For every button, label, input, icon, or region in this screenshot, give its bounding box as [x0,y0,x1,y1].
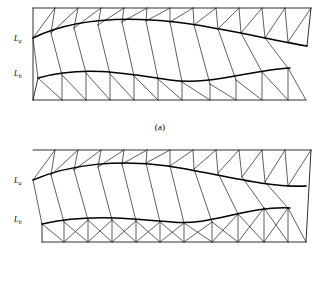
b-middle-band-line-6 [170,166,184,223]
b-right-boundary [306,150,311,242]
a-lower-diagonal-10 [288,68,306,100]
a-middle-band-line-8 [218,29,236,80]
a-lower-diagonal-8 [236,80,262,100]
b-upper-diagonal-1 [51,150,78,175]
a-upper-diagonal-7 [194,8,216,25]
a-lower-diagonal-4 [134,76,158,100]
b-upper-vertical-3 [122,150,124,164]
b-middle-band-line-1 [51,175,64,222]
panel-caption-a: (a) [0,122,320,132]
curve-label-group-b: LaLb [13,176,22,225]
a-upper-vertical-9 [262,8,265,38]
a-label-La: La [13,34,22,44]
a-upper-vertical-8 [239,8,241,33]
a-lower-diagonal-3 [110,74,134,100]
a-lower-left-closure [33,78,38,100]
a-lower-diagonal-9 [262,72,288,100]
mesh-diagram-a: LaLb [0,0,320,120]
a-upper-diagonal-5 [146,8,170,21]
a-label-Lb: Lb [13,69,22,79]
curve-label-group-a: LaLb [13,34,22,79]
a-lower-diagonal-5 [158,79,182,100]
a-upper-diagonal-2 [74,8,101,28]
b-upper-diagonal-8 [218,150,239,173]
b-upper-vertical-10 [285,150,288,186]
a-upper-vertical-2 [98,8,101,25]
a-lower-diagonal-7 [210,84,236,100]
a-middle-band-line-2 [74,28,86,73]
mesh-boundary-group-b [33,150,311,242]
b-upper-vertical-9 [262,150,265,182]
b-upper-diagonal-9 [242,150,262,177]
b-label-Lb: Lb [13,215,22,225]
a-middle-band-line-0 [33,38,38,78]
b-upper-diagonal-4 [122,150,147,164]
figure-root: LaLb (a) LaLb (b) [0,0,320,284]
panel-b: LaLb (b) [0,142,320,284]
a-upper-diagonal-10 [265,8,285,38]
b-upper-vertical-0 [51,150,55,175]
a-right-upper-boundary [307,8,311,46]
b-middle-band-line-0 [33,180,42,224]
b-upper-diagonal-5 [146,150,170,163]
b-middle-band-line-5 [146,163,160,222]
a-middle-band-line-9 [241,33,262,72]
a-middle-band-line-7 [194,25,210,84]
a-upper-diagonal-3 [98,8,124,25]
b-upper-vertical-6 [193,150,194,169]
b-interface-curve-b [42,208,290,224]
interface-curve-group-b [33,163,306,224]
a-upper-vertical-10 [285,8,288,42]
a-lower-diagonal-1 [62,75,86,100]
mesh-diagram-b: LaLb [0,142,320,262]
b-upper-diagonal-7 [194,150,216,169]
a-middle-band-line-1 [51,33,62,75]
b-label-La: La [13,176,22,186]
b-lower-diagonal-10 [288,208,306,242]
a-middle-band-line-3 [98,25,110,74]
a-interface-curve-b [38,68,290,81]
b-middle-band-line-7 [194,169,212,222]
mesh-edge-group-b [33,150,311,242]
b-middle-band-line-4 [122,164,136,221]
a-lower-diagonal-0 [38,78,62,100]
a-upper-diagonal-6 [170,8,193,22]
a-middle-band-line-4 [122,22,134,76]
b-interface-curve-a [33,163,306,186]
b-middle-band-line-3 [98,167,112,220]
panel-a: LaLb (a) [0,0,320,142]
a-upper-vertical-7 [216,8,218,29]
b-upper-diagonal-10 [265,150,285,182]
a-middle-band-line-6 [170,22,182,82]
b-upper-vertical-7 [216,150,218,173]
b-lower-diagonal-8 [238,214,264,242]
a-upper-vertical-6 [193,8,194,25]
b-middle-band-line-2 [74,170,88,220]
a-upper-diagonal-9 [241,8,262,33]
a-lower-diagonal-2 [86,73,110,100]
b-upper-vertical-4 [146,150,147,163]
b-lower-diagonal-0 [42,224,64,242]
b-upper-diagonal-6 [170,150,193,166]
a-lower-diagonal-6 [182,82,210,100]
b-upper-diagonal-11 [288,150,311,186]
a-middle-band-line-5 [146,21,158,79]
b-lower-diagonal-7 [212,222,238,242]
a-upper-diagonal-8 [218,8,239,29]
b-upper-vertical-8 [239,150,242,177]
